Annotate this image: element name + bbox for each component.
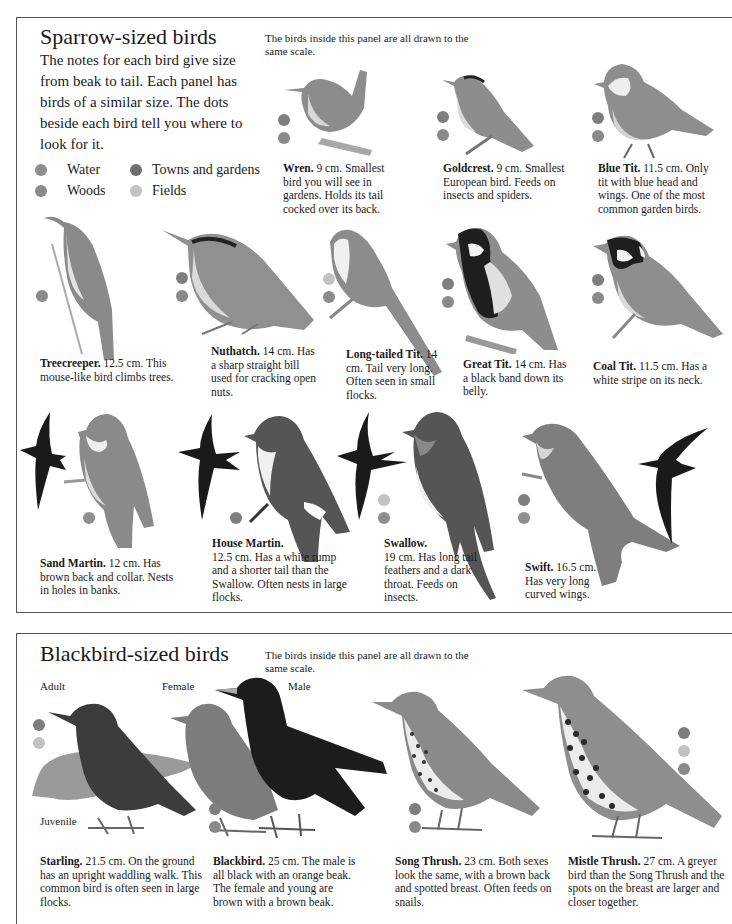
mistle-thrush-caption: Mistle Thrush. 27 cm. A greyer bird than…	[568, 855, 728, 909]
woods-dot-icon	[36, 290, 48, 302]
towns-dot-icon	[409, 803, 421, 815]
blackbird-panel-title: Blackbird-sized birds	[40, 641, 229, 667]
woods-dot-icon	[678, 763, 690, 775]
towns-dot-icon	[33, 719, 45, 731]
starling-habitat-dots	[33, 719, 45, 749]
coal-tit-caption: Coal Tit. 11.5 cm. Has a white stripe on…	[593, 360, 723, 387]
long-tailed-tit-caption: Long-tailed Tit. 14 cm. Tail very long. …	[346, 348, 438, 402]
towns-dot-icon	[442, 278, 454, 290]
towns-dot-icon	[518, 494, 530, 506]
treecreeper-illustration	[42, 214, 120, 362]
blue-tit-caption: Blue Tit. 11.5 cm. Only tit with blue he…	[598, 162, 713, 216]
fields-dot-icon	[678, 745, 690, 757]
great-tit-habitat-dots	[442, 278, 454, 308]
blue-tit-illustration	[592, 62, 717, 162]
great-tit-illustration	[446, 226, 562, 354]
woods-dot-icon	[442, 296, 454, 308]
treecreeper-habitat-dots	[36, 290, 48, 302]
blackbird-caption: Blackbird. 25 cm. The male is all black …	[213, 855, 363, 909]
woods-dot-icon	[35, 185, 47, 197]
mistle-thrush-habitat-dots	[678, 727, 690, 775]
great-tit-caption: Great Tit. 14 cm. Has a black band down …	[463, 358, 573, 399]
song-thrush-illustration	[372, 690, 542, 840]
blackbird-scale-note: The birds inside this panel are all draw…	[265, 649, 480, 675]
coal-tit-illustration	[593, 234, 725, 340]
woods-dot-icon	[209, 821, 221, 833]
coal-tit-habitat-dots	[592, 274, 604, 304]
swallow-flight-silhouette	[335, 410, 407, 520]
towns-dot-icon	[176, 272, 188, 284]
song-thrush-habitat-dots	[409, 803, 421, 833]
swift-flight-silhouette	[638, 426, 710, 544]
treecreeper-caption: Treecreeper. 12.5 cm. This mouse-like bi…	[40, 357, 190, 384]
fields-dot-icon	[33, 737, 45, 749]
wren-illustration	[282, 68, 382, 160]
sparrow-panel-intro: The notes for each bird give size from b…	[40, 50, 255, 155]
house-martin-habitat-dots	[230, 512, 242, 524]
swallow-caption: Swallow.19 cm. Has long tail feathers an…	[384, 537, 484, 605]
nuthatch-caption: Nuthatch. 14 cm. Has a sharp straight bi…	[211, 345, 321, 399]
legend-woods: Woods	[35, 183, 106, 199]
wren-habitat-dots	[278, 114, 290, 144]
song-thrush-caption: Song Thrush. 23 cm. Both sexes look the …	[395, 855, 555, 909]
water-dot-icon	[378, 512, 390, 524]
fields-dot-icon	[378, 494, 390, 506]
house-martin-flight-silhouette	[178, 412, 242, 520]
sparrow-panel-title: Sparrow-sized birds	[40, 24, 217, 50]
woods-dot-icon	[409, 821, 421, 833]
starling-caption: Starling. 21.5 cm. On the ground has an …	[40, 855, 205, 909]
wren-caption: Wren. 9 cm. Smallest bird you will see i…	[283, 162, 403, 216]
towns-dot-icon	[230, 512, 242, 524]
nuthatch-habitat-dots	[176, 272, 188, 302]
blackbird-male-illustration	[215, 676, 390, 846]
towns-dot-icon	[437, 111, 449, 123]
towns-dot-icon	[678, 727, 690, 739]
towns-dot-icon	[592, 112, 604, 124]
sand-martin-illustration	[64, 410, 158, 550]
water-dot-icon	[35, 164, 47, 176]
woods-dot-icon	[323, 291, 335, 303]
goldcrest-caption: Goldcrest. 9 cm. Smallest European bird.…	[443, 162, 573, 203]
swallow-habitat-dots	[378, 494, 390, 524]
legend-water: Water	[35, 162, 100, 178]
legend-label: Towns and gardens	[152, 162, 260, 178]
house-martin-caption: House Martin.12.5 cm. Has a white rump a…	[212, 537, 352, 605]
goldcrest-habitat-dots	[437, 111, 449, 141]
woods-dot-icon	[592, 130, 604, 142]
fields-dot-icon	[323, 273, 335, 285]
sparrow-scale-note: The birds inside this panel are all draw…	[265, 32, 480, 58]
swift-habitat-dots	[518, 494, 530, 524]
sand-martin-flight-silhouette	[18, 410, 68, 510]
swift-caption: Swift. 16.5 cm. Has very long curved win…	[525, 561, 600, 602]
goldcrest-illustration	[442, 72, 540, 160]
mistle-thrush-illustration	[522, 672, 727, 844]
woods-dot-icon	[437, 129, 449, 141]
towns-dot-icon	[278, 114, 290, 126]
blue-tit-habitat-dots	[592, 112, 604, 142]
towns-dot-icon	[130, 164, 142, 176]
towns-dot-icon	[592, 274, 604, 286]
woods-dot-icon	[592, 292, 604, 304]
towns-dot-icon	[209, 803, 221, 815]
woods-dot-icon	[176, 290, 188, 302]
fields-dot-icon	[130, 185, 142, 197]
water-dot-icon	[518, 512, 530, 524]
legend-label: Fields	[152, 183, 186, 199]
blackbird-habitat-dots	[209, 803, 221, 833]
sand-martin-habitat-dots	[83, 512, 95, 524]
label-female: Female	[162, 680, 194, 692]
legend-towns: Towns and gardens	[130, 162, 260, 178]
legend-fields: Fields	[130, 183, 186, 199]
long-tailed-tit-habitat-dots	[323, 273, 335, 303]
legend-label: Woods	[67, 183, 106, 199]
legend-label: Water	[67, 162, 100, 178]
woods-dot-icon	[278, 132, 290, 144]
sand-martin-caption: Sand Martin. 12 cm. Has brown back and c…	[40, 557, 180, 598]
water-dot-icon	[83, 512, 95, 524]
label-adult: Adult	[40, 680, 65, 692]
